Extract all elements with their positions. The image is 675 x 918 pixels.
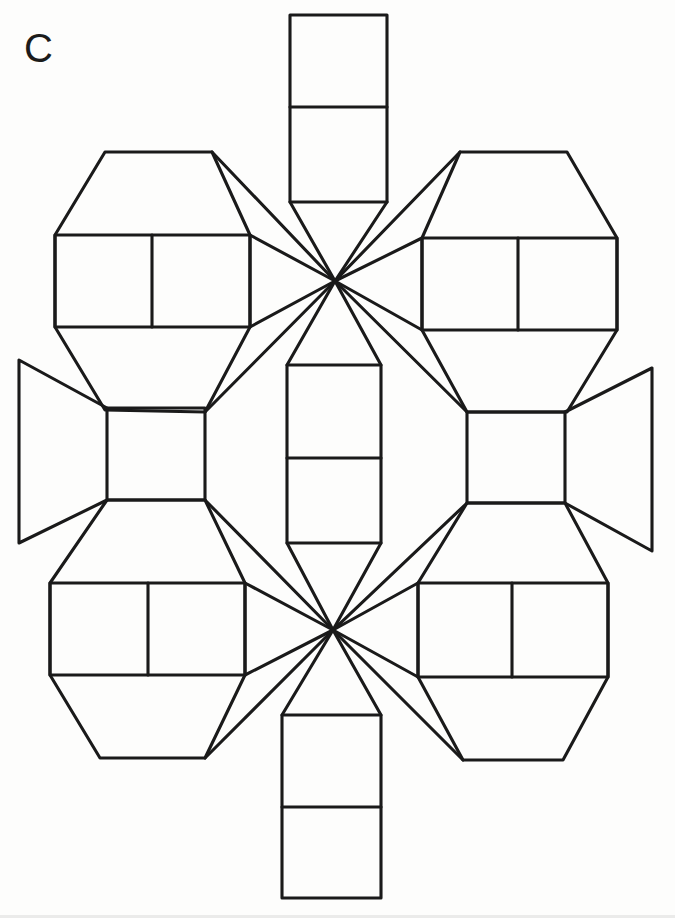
- net-geometry-from-data: [19, 15, 652, 898]
- data-top-spoke-0: [212, 152, 335, 281]
- left-square-outline: [107, 408, 205, 500]
- data-bottom-spoke-0: [205, 500, 333, 630]
- polyhedron-net-drawing: [0, 0, 675, 918]
- data-bottom-spoke-6: [333, 503, 467, 630]
- left-flap-outline: [19, 360, 107, 543]
- net-diagram-figure: C: [0, 0, 675, 918]
- center-strip-outline: [287, 365, 381, 543]
- data-bottom-spoke-3: [205, 630, 333, 758]
- right-square-outline: [467, 412, 565, 503]
- data-bottom-spoke-9: [333, 630, 463, 760]
- data-top-spoke-3: [205, 281, 335, 412]
- data-top-spoke-6: [335, 152, 460, 281]
- data-top-spoke-9: [335, 281, 467, 412]
